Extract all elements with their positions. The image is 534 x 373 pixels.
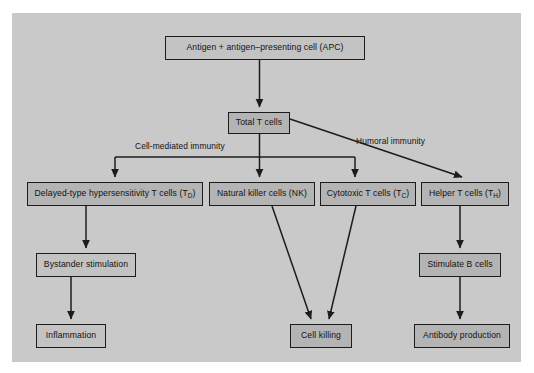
node-antigen-apc-label: Antigen + antigen–presenting cell (APC) [186, 43, 343, 52]
node-delayed-type-hypersensitivity[interactable]: Delayed-type hypersensitivity T cells (T… [27, 182, 203, 206]
node-total-t-cells[interactable]: Total T cells [228, 112, 290, 134]
edge-label-cell-mediated-immunity: Cell-mediated immunity [135, 141, 225, 151]
node-natural-killer-cells-label: Natural killer cells (NK) [217, 189, 307, 198]
node-inflammation-label: Inflammation [46, 331, 96, 340]
node-antibody-production[interactable]: Antibody production [414, 324, 510, 348]
label-tail: ) [498, 188, 501, 198]
edge-label-humoral-immunity: Humoral immunity [356, 136, 425, 146]
label-tail: ) [406, 188, 409, 198]
node-natural-killer-cells[interactable]: Natural killer cells (NK) [209, 182, 315, 206]
label-subscript: C [402, 192, 407, 199]
node-helper-t-cells-label: Helper T cells (TH) [429, 189, 501, 198]
node-antigen-apc[interactable]: Antigen + antigen–presenting cell (APC) [165, 36, 365, 60]
label-main: Delayed-type hypersensitivity T cells (T [35, 188, 188, 198]
node-total-t-cells-label: Total T cells [236, 118, 282, 127]
node-stimulate-b-cells-label: Stimulate B cells [427, 260, 492, 269]
node-antibody-production-label: Antibody production [423, 331, 501, 340]
label-main: Cytotoxic T cells (T [327, 188, 402, 198]
node-cytotoxic-t-cells[interactable]: Cytotoxic T cells (TC) [320, 182, 416, 206]
label-tail: ) [192, 188, 195, 198]
node-cytotoxic-t-cells-label: Cytotoxic T cells (TC) [327, 189, 409, 198]
node-inflammation[interactable]: Inflammation [36, 324, 106, 348]
label-subscript: H [493, 192, 498, 199]
node-cell-killing[interactable]: Cell killing [290, 324, 352, 348]
node-stimulate-b-cells[interactable]: Stimulate B cells [419, 253, 501, 277]
flowchart-page: Antigen + antigen–presenting cell (APC) … [0, 0, 534, 373]
node-cell-killing-label: Cell killing [301, 331, 341, 340]
node-helper-t-cells[interactable]: Helper T cells (TH) [421, 182, 509, 206]
node-bystander-stimulation[interactable]: Bystander stimulation [36, 253, 136, 277]
node-delayed-type-hypersensitivity-label: Delayed-type hypersensitivity T cells (T… [35, 189, 196, 198]
label-main: Helper T cells (T [429, 188, 493, 198]
node-bystander-stimulation-label: Bystander stimulation [44, 260, 128, 269]
label-subscript: D [188, 192, 193, 199]
